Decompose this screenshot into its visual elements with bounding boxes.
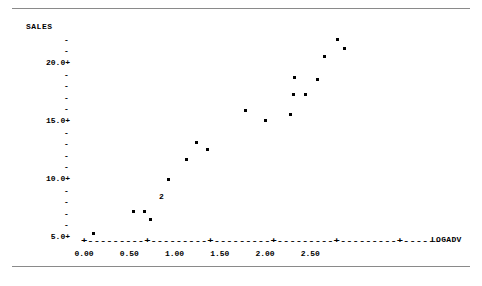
data-point-marker (132, 210, 135, 213)
data-point (206, 148, 212, 154)
data-point-marker (316, 78, 319, 81)
y-axis-minor-tick: - (64, 70, 69, 79)
data-point-marker (244, 109, 247, 112)
data-point (304, 93, 310, 99)
y-axis-minor-tick: - (64, 151, 69, 160)
y-axis-minor-tick: - (64, 197, 69, 206)
data-point-marker (289, 113, 292, 116)
data-point (185, 158, 191, 164)
data-point-marker (323, 55, 326, 58)
data-point-marker (149, 218, 152, 221)
data-point (293, 76, 299, 82)
data-point (336, 38, 342, 44)
y-axis-minor-tick: - (64, 46, 69, 55)
x-axis-tick-label: 1.00 (161, 249, 189, 258)
data-point-marker (185, 158, 188, 161)
data-point (167, 178, 173, 184)
data-point-overlap-count: 2 (159, 193, 164, 201)
scatter-plot-screenshot: SALES 5.0+10.0+15.0+20.0+-------------- … (0, 0, 482, 286)
plot-area: SALES 5.0+10.0+15.0+20.0+-------------- … (0, 0, 482, 286)
x-axis-tick-label: 0.50 (115, 249, 143, 258)
data-point-marker (195, 141, 198, 144)
data-point (343, 47, 349, 53)
data-point-marker (292, 93, 295, 96)
data-point (264, 119, 270, 125)
data-point-marker (304, 93, 307, 96)
y-axis-tick-label: 5.0+ (26, 232, 70, 241)
y-axis-minor-tick: - (64, 35, 69, 44)
x-axis-tick-label: 0.00 (70, 249, 98, 258)
data-point (92, 232, 98, 238)
data-point-marker (336, 38, 339, 41)
x-axis-tick-label: 2.50 (296, 249, 324, 258)
y-axis-tick-label: 10.0+ (26, 174, 70, 183)
x-axis-rule: +---------+---------+---------+---------… (81, 236, 441, 245)
y-axis-minor-tick: - (64, 162, 69, 171)
y-axis-tick-label: 15.0+ (26, 116, 70, 125)
y-axis-minor-tick: - (64, 104, 69, 113)
data-point (195, 141, 201, 147)
y-axis-tick-label: 20.0+ (26, 58, 70, 67)
y-axis-minor-tick: - (64, 209, 69, 218)
y-axis-minor-tick: - (64, 139, 69, 148)
data-point (289, 113, 295, 119)
data-point-marker (143, 210, 146, 213)
y-axis-minor-tick: - (64, 128, 69, 137)
data-point-marker (293, 76, 296, 79)
data-point-marker (343, 47, 346, 50)
data-point-marker (206, 148, 209, 151)
data-point (292, 93, 298, 99)
y-axis-minor-tick: - (64, 186, 69, 195)
x-axis-tick-label: 1.50 (206, 249, 234, 258)
x-axis-title: LOGADV (431, 235, 462, 244)
data-point (149, 218, 155, 224)
y-axis-minor-tick: - (64, 220, 69, 229)
data-point (323, 55, 329, 61)
data-point-marker (92, 232, 95, 235)
y-axis-minor-tick: - (64, 93, 69, 102)
data-point (244, 109, 250, 115)
y-axis-minor-tick: - (64, 81, 69, 90)
data-point (132, 210, 138, 216)
data-point (316, 78, 322, 84)
data-point (143, 210, 149, 216)
data-point-marker (167, 178, 170, 181)
x-axis-tick-label: 2.00 (251, 249, 279, 258)
y-axis-title: SALES (26, 22, 53, 31)
data-point-marker (264, 119, 267, 122)
